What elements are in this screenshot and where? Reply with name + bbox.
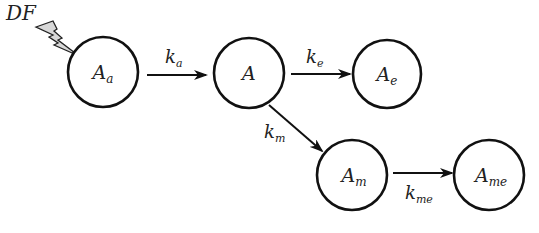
node-subscript: e xyxy=(390,74,397,88)
rate-constant-label: ka xyxy=(165,46,182,70)
rate-constant-subscript: e xyxy=(317,57,324,70)
rate-constant-label: km xyxy=(264,121,285,145)
node-subscript: me xyxy=(489,175,507,189)
rate-constant-subscript: a xyxy=(176,57,183,70)
node-aa: Aa xyxy=(68,37,138,107)
edge-a-to-am: km xyxy=(264,105,322,151)
node-a: A xyxy=(214,38,284,108)
rate-constant-subscript: m xyxy=(275,132,285,145)
source-label-df: DF xyxy=(5,1,37,25)
diagram-canvas: DF kakekmkme AaAAeAmAme xyxy=(0,0,539,233)
node-subscript: a xyxy=(106,72,113,86)
rate-constant-label: kme xyxy=(405,182,433,206)
lightning-bolt-icon xyxy=(36,21,79,56)
node-subscript: m xyxy=(355,175,366,189)
edge-am-to-ame: kme xyxy=(393,173,452,206)
nodes-group: AaAAeAmAme xyxy=(68,37,524,210)
edge-aa-to-a: ka xyxy=(147,46,206,75)
node-am: Am xyxy=(317,140,387,210)
rate-constant-subscript: me xyxy=(416,193,433,206)
node-ame: Ame xyxy=(454,140,524,210)
edge-a-to-ae: ke xyxy=(291,46,350,74)
node-label: A xyxy=(240,62,256,84)
rate-constant-label: ke xyxy=(306,46,324,70)
node-ae: Ae xyxy=(353,40,421,108)
